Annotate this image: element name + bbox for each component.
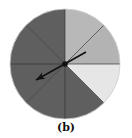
spinner-diagram	[0, 0, 132, 120]
spinner-hub	[62, 61, 68, 67]
figure-caption: (b)	[0, 121, 132, 134]
